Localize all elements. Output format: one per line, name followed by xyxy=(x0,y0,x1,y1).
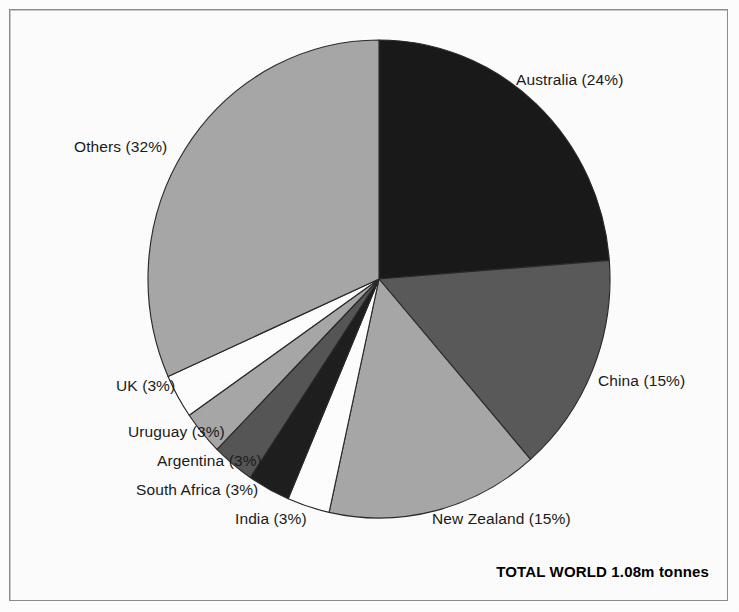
pie-label-australia: Australia (24%) xyxy=(516,72,623,88)
pie-label-south-africa: South Africa (3%) xyxy=(136,482,258,498)
pie-label-argentina: Argentina (3%) xyxy=(157,453,262,469)
pie-label-china: China (15%) xyxy=(598,373,685,389)
pie-label-india: India (3%) xyxy=(235,511,307,527)
chart-page: Australia (24%)China (15%)New Zealand (1… xyxy=(0,0,739,612)
pie-label-uruguay: Uruguay (3%) xyxy=(128,424,225,440)
pie-label-others: Others (32%) xyxy=(74,139,167,155)
pie-slices-group xyxy=(148,40,610,518)
pie-label-new-zealand: New Zealand (15%) xyxy=(432,511,571,527)
pie-label-uk: UK (3%) xyxy=(116,378,175,394)
total-world-caption: TOTAL WORLD 1.08m tonnes xyxy=(496,563,709,580)
pie-chart xyxy=(0,0,739,612)
